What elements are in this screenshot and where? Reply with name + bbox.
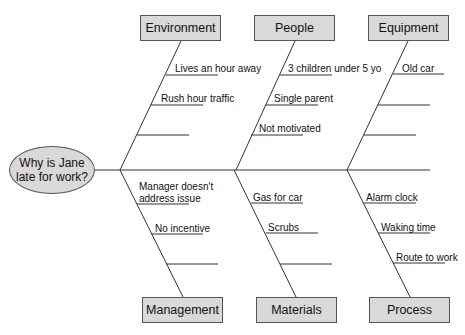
cause-label: No incentive (155, 223, 210, 234)
category-equipment: Equipment (368, 15, 449, 41)
cause-label: Not motivated (259, 123, 321, 134)
problem-line-2: late for work? (16, 170, 88, 184)
cause-label: 3 children under 5 yo (288, 63, 381, 74)
category-people: People (254, 15, 335, 41)
cause-label: Waking time (381, 222, 436, 233)
category-environment: Environment (140, 15, 221, 41)
category-materials: Materials (256, 297, 337, 323)
cause-label: Single parent (274, 93, 333, 104)
category-process: Process (369, 297, 450, 323)
cause-label: Scrubs (268, 222, 299, 233)
problem-line-1: Why is Jane (19, 156, 84, 170)
category-management: Management (142, 297, 223, 323)
cause-label: Alarm clock (366, 192, 418, 203)
cause-label: Rush hour traffic (161, 93, 234, 104)
cause-label: Gas for car (253, 192, 302, 203)
cause-label: Old car (402, 63, 434, 74)
cause-label: Route to work (396, 252, 458, 263)
cause-label: Lives an hour away (175, 63, 261, 74)
cause-label: address issue (139, 193, 201, 204)
cause-label: Manager doesn't (139, 181, 213, 192)
problem-statement: Why is Jane late for work? (9, 146, 95, 194)
